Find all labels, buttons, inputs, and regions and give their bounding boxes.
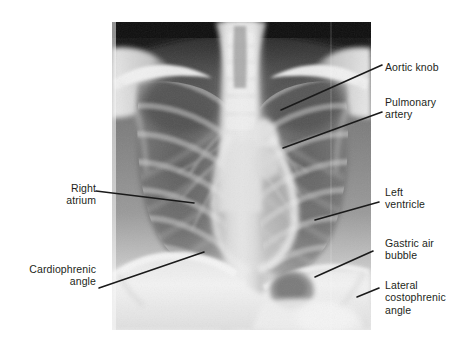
radiograph-canvas [112,22,371,330]
annotated-chest-xray-figure: Aortic knob Pulmonary artery Right atriu… [0,0,472,349]
label-left-ventricle: Left ventricle [385,186,425,211]
label-right-atrium: Right atrium [16,182,96,207]
label-gastric-air-bubble: Gastric air bubble [385,237,434,262]
chest-radiograph-image [112,22,371,330]
label-lateral-costophrenic-angle: Lateral costophrenic angle [385,279,446,316]
label-aortic-knob: Aortic knob [385,61,439,73]
label-cardiophrenic-angle: Cardiophrenic angle [6,263,96,288]
label-pulmonary-artery: Pulmonary artery [385,96,436,121]
